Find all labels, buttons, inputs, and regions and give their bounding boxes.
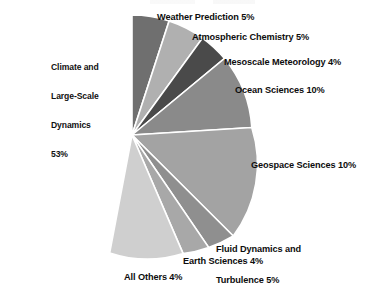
slice-label-weather-prediction: Weather Prediction 5% xyxy=(157,12,254,22)
slice-label-earth-sciences: Earth Sciences 4% xyxy=(183,256,263,266)
slice-label-geospace-sciences: Geospace Sciences 10% xyxy=(251,160,356,170)
slice-label-atmospheric-chemistry: Atmospheric Chemistry 5% xyxy=(192,32,309,42)
slice-label-line-2: Large-Scale xyxy=(51,92,99,102)
slice-label-climate-and-large-scale-dynamics: Climate and Large-Scale Dynamics 53% xyxy=(51,44,99,178)
slice-label-ocean-sciences: Ocean Sciences 10% xyxy=(235,85,325,95)
slice-label-line-1: Fluid Dynamics and xyxy=(216,244,301,254)
slice-label-all-others: All Others 4% xyxy=(124,272,182,282)
slice-label-line-2: Turbulence 5% xyxy=(216,275,301,285)
slice-label-line-4: 53% xyxy=(51,150,99,160)
pie-chart: Climate and Large-Scale Dynamics 53% Wea… xyxy=(0,0,384,291)
slice-label-line-1: Climate and xyxy=(51,63,99,73)
slice-label-mesoscale-meteorology: Mesoscale Meteorology 4% xyxy=(224,57,341,67)
slice-label-line-3: Dynamics xyxy=(51,121,99,131)
